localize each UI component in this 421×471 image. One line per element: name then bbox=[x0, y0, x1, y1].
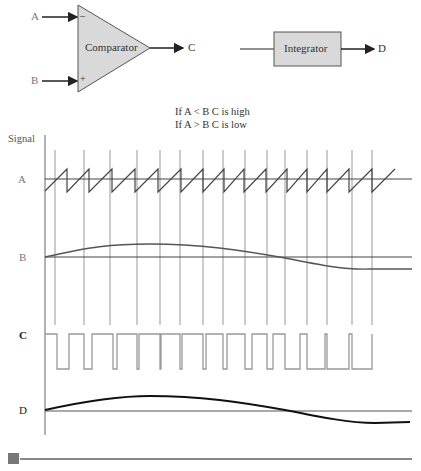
timing-diagram bbox=[0, 0, 421, 471]
signal-c-waveform bbox=[45, 334, 372, 369]
vertical-markers bbox=[55, 150, 372, 325]
signal-d-waveform bbox=[45, 396, 410, 423]
signal-a-waveform bbox=[45, 169, 395, 192]
slider-handle[interactable] bbox=[8, 453, 19, 464]
